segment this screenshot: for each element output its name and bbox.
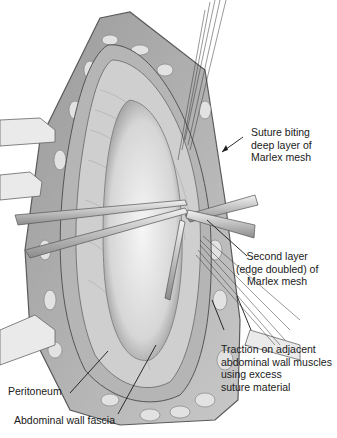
label-line: (edge doubled) of — [236, 263, 318, 276]
label-line: suture material — [221, 381, 332, 394]
label-peritoneum: Peritoneum — [8, 385, 62, 398]
label-second-layer: Second layer (edge doubled) of Marlex me… — [236, 250, 318, 288]
label-line: Peritoneum — [8, 385, 62, 398]
label-line: abdominal wall muscles — [221, 356, 332, 369]
label-line: Marlex mesh — [251, 151, 312, 164]
label-line: Marlex mesh — [236, 275, 318, 288]
label-traction: Traction on adjacent abdominal wall musc… — [221, 343, 332, 393]
label-line: Traction on adjacent — [221, 343, 332, 356]
label-line: Second layer — [236, 250, 318, 263]
label-line: Suture biting — [251, 126, 312, 139]
label-line: deep layer of — [251, 139, 312, 152]
label-abdominal-wall-fascia: Abdominal wall fascia — [14, 414, 115, 427]
label-suture-biting: Suture biting deep layer of Marlex mesh — [251, 126, 312, 164]
label-line: using excess — [221, 368, 332, 381]
label-line: Abdominal wall fascia — [14, 414, 115, 427]
